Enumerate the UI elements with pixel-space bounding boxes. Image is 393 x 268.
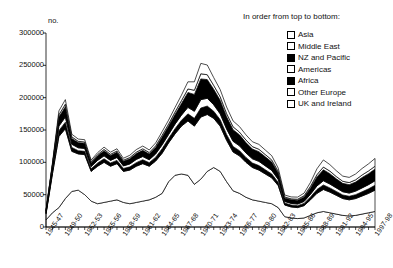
legend-swatch-icon <box>287 65 295 73</box>
legend-item[interactable]: Other Europe <box>287 88 346 97</box>
legend-item-label: UK and Ireland <box>298 99 351 108</box>
y-axis-tick-label: 100000 <box>0 157 44 166</box>
y-axis-tick-label: 250000 <box>0 60 44 69</box>
legend-swatch-icon <box>287 54 295 62</box>
legend-swatch-icon <box>287 100 295 108</box>
legend-item[interactable]: UK and Ireland <box>287 99 351 108</box>
legend-item-label: Americas <box>298 65 331 74</box>
legend-item-label: Asia <box>298 30 314 39</box>
legend-item-label: NZ and Pacific <box>298 53 350 62</box>
legend-item-label: Other Europe <box>298 88 346 97</box>
y-axis-tick-label: 0 <box>0 222 44 231</box>
legend-item[interactable]: Asia <box>287 30 314 39</box>
legend-item[interactable]: Africa <box>287 76 318 85</box>
y-axis-unit-label: no. <box>48 16 58 25</box>
legend-item-label: Africa <box>298 76 318 85</box>
y-axis-tick-label: 300000 <box>0 28 44 37</box>
legend-swatch-icon <box>287 77 295 85</box>
y-axis-tick-label: 200000 <box>0 93 44 102</box>
legend-title: In order from top to bottom: <box>243 12 340 21</box>
legend-swatch-icon <box>287 31 295 39</box>
legend-item-label: Middle East <box>298 42 340 51</box>
legend-swatch-icon <box>287 88 295 96</box>
legend-item[interactable]: NZ and Pacific <box>287 53 350 62</box>
legend-item[interactable]: Middle East <box>287 42 340 51</box>
y-axis-tick-label: 150000 <box>0 125 44 134</box>
legend-swatch-icon <box>287 42 295 50</box>
y-axis-tick-label: 50000 <box>0 190 44 199</box>
legend-item[interactable]: Americas <box>287 65 331 74</box>
